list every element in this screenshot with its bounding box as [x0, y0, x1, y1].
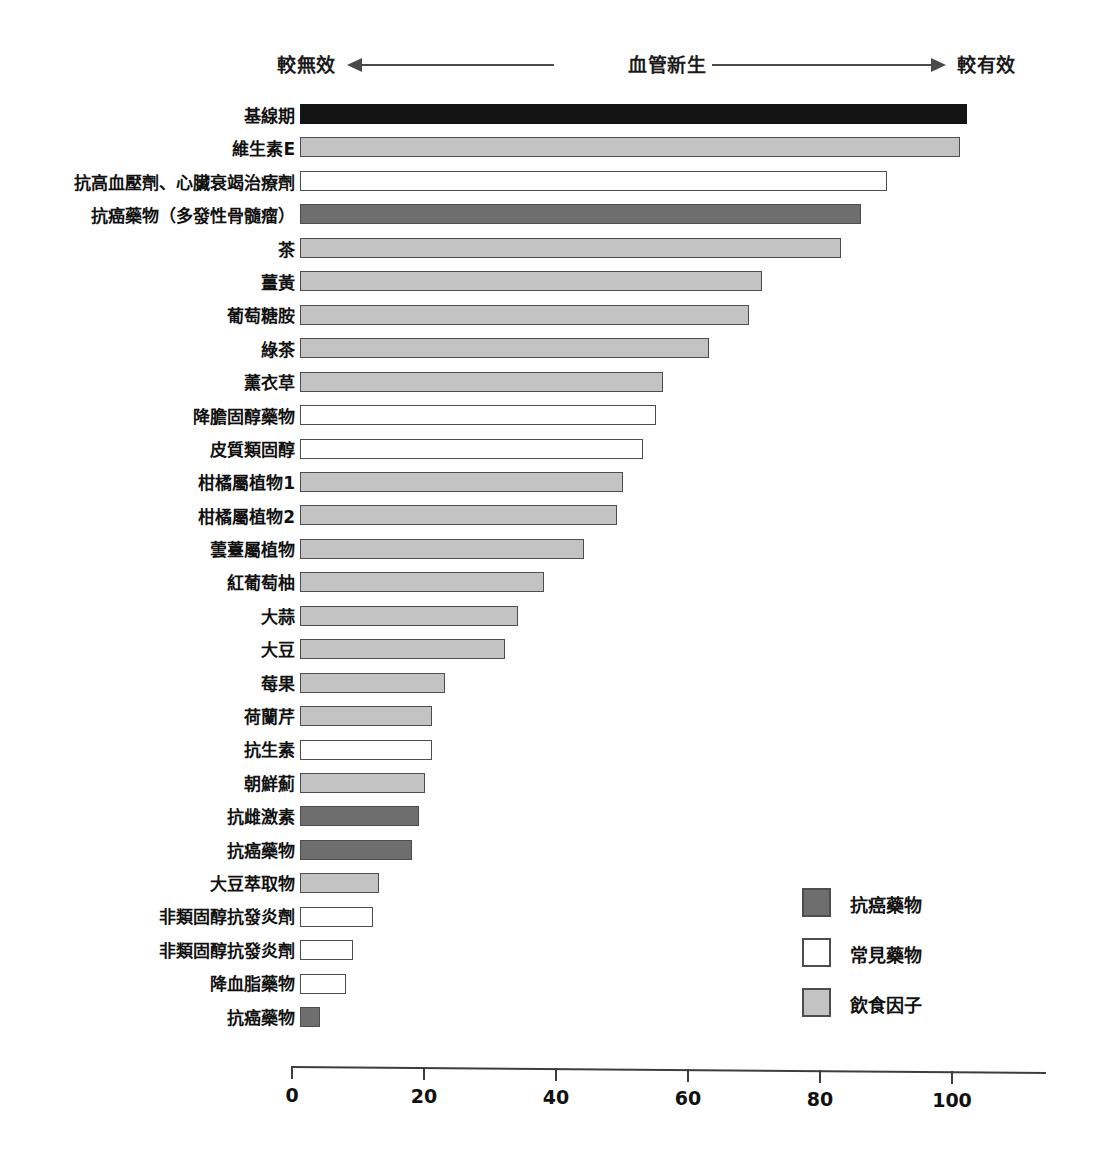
bar-category-label: 抗癌藥物 — [0, 1007, 295, 1029]
x-axis-tick-label: 0 — [285, 1084, 298, 1106]
bar-row: 抗高血壓劑、心臟衰竭治療劑 — [0, 170, 1105, 203]
bar-row: 葡萄糖胺 — [0, 303, 1105, 336]
legend: 抗癌藥物常見藥物飲食因子 — [802, 888, 1042, 1038]
legend-item: 飲食因子 — [802, 988, 1042, 1038]
x-axis-tick-label: 60 — [675, 1087, 701, 1109]
bar — [300, 372, 663, 392]
bar — [300, 1007, 320, 1027]
bar-category-label: 大豆 — [0, 639, 295, 661]
bar — [300, 806, 419, 826]
x-axis-tick — [423, 1067, 425, 1080]
bar-category-label: 柑橘屬植物1 — [0, 472, 295, 494]
bar-row: 薑黃 — [0, 270, 1105, 303]
x-axis-tick-label: 80 — [807, 1088, 833, 1110]
bar-row: 抗雌激素 — [0, 804, 1105, 837]
legend-swatch-cancer — [802, 888, 831, 917]
legend-label: 抗癌藥物 — [850, 891, 922, 917]
x-axis: 020406080100 — [0, 1062, 1105, 1152]
bar — [300, 940, 353, 960]
bar-row: 降膽固醇藥物 — [0, 404, 1105, 437]
bar — [300, 505, 617, 525]
arrow-left-shaft — [362, 64, 554, 66]
bar — [300, 873, 379, 893]
x-axis-tick-label: 100 — [932, 1089, 972, 1111]
bar-row: 朝鮮薊 — [0, 771, 1105, 804]
bar-row: 大蒜 — [0, 604, 1105, 637]
bar-category-label: 抗癌藥物（多發性骨髓瘤） — [0, 205, 295, 227]
bar-category-label: 降血脂藥物 — [0, 973, 295, 995]
legend-item: 常見藥物 — [802, 938, 1042, 988]
bar-category-label: 抗癌藥物 — [0, 840, 295, 862]
bar-category-label: 茶 — [0, 239, 295, 261]
bar — [300, 271, 762, 291]
bar — [300, 773, 425, 793]
bar-category-label: 基線期 — [0, 105, 295, 127]
bar-category-label: 薑黃 — [0, 272, 295, 294]
bar — [300, 439, 643, 459]
bar-category-label: 莓果 — [0, 673, 295, 695]
bar — [300, 405, 656, 425]
bar — [300, 539, 584, 559]
bar-row: 抗癌藥物 — [0, 838, 1105, 871]
arrow-right-icon — [931, 58, 946, 72]
bar-category-label: 大豆萃取物 — [0, 873, 295, 895]
bar — [300, 706, 432, 726]
bar-row: 基線期 — [0, 103, 1105, 136]
bar-row: 茶 — [0, 237, 1105, 270]
bar-category-label: 蕓薹屬植物 — [0, 539, 295, 561]
bar-category-label: 非類固醇抗發炎劑 — [0, 906, 295, 928]
bar — [300, 238, 841, 258]
bar — [300, 740, 432, 760]
bar-category-label: 抗高血壓劑、心臟衰竭治療劑 — [0, 172, 295, 194]
bar — [300, 606, 518, 626]
legend-label: 飲食因子 — [850, 991, 922, 1017]
bar-category-label: 降膽固醇藥物 — [0, 406, 295, 428]
bar-row: 蕓薹屬植物 — [0, 537, 1105, 570]
bar — [300, 639, 505, 659]
bar-category-label: 葡萄糖胺 — [0, 305, 295, 327]
bar-category-label: 抗生素 — [0, 739, 295, 761]
x-axis-tick — [951, 1071, 953, 1084]
bar — [300, 907, 373, 927]
direction-banner: 較無效 血管新生 較有效 — [0, 52, 1105, 92]
legend-label: 常見藥物 — [850, 941, 922, 967]
bar-category-label: 薰衣草 — [0, 372, 295, 394]
bar-category-label: 非類固醇抗發炎劑 — [0, 940, 295, 962]
more-effective-label: 較有效 — [957, 52, 1016, 78]
arrow-right-shaft — [712, 64, 934, 66]
bar-category-label: 維生素E — [0, 138, 295, 160]
angiogenesis-label: 血管新生 — [628, 52, 706, 78]
bar-category-label: 大蒜 — [0, 606, 295, 628]
bar — [300, 104, 967, 124]
legend-swatch-diet — [802, 988, 831, 1017]
bar-row: 大豆 — [0, 637, 1105, 670]
angiogenesis-bar-chart: 較無效 血管新生 較有效 基線期維生素E抗高血壓劑、心臟衰竭治療劑抗癌藥物（多發… — [0, 0, 1105, 1164]
bar-row: 綠茶 — [0, 337, 1105, 370]
x-axis-tick — [819, 1070, 821, 1083]
bar-row: 荷蘭芹 — [0, 704, 1105, 737]
x-axis-tick-label: 40 — [543, 1086, 569, 1108]
less-effective-label: 較無效 — [277, 52, 336, 78]
bar-category-label: 綠茶 — [0, 339, 295, 361]
bar-category-label: 荷蘭芹 — [0, 706, 295, 728]
x-axis-tick — [291, 1066, 293, 1079]
bar — [300, 472, 623, 492]
bar-row: 薰衣草 — [0, 370, 1105, 403]
legend-item: 抗癌藥物 — [802, 888, 1042, 938]
bar-category-label: 皮質類固醇 — [0, 439, 295, 461]
bar-row: 維生素E — [0, 136, 1105, 169]
bar-category-label: 柑橘屬植物2 — [0, 506, 295, 528]
bar — [300, 572, 544, 592]
bar-row: 柑橘屬植物1 — [0, 470, 1105, 503]
bar-row: 柑橘屬植物2 — [0, 504, 1105, 537]
bar — [300, 171, 887, 191]
bar-category-label: 紅葡萄柚 — [0, 572, 295, 594]
x-axis-tick — [687, 1069, 689, 1082]
bar — [300, 840, 412, 860]
x-axis-line — [291, 1066, 1046, 1074]
bar — [300, 974, 346, 994]
legend-swatch-drug — [802, 938, 831, 967]
bar-category-label: 朝鮮薊 — [0, 773, 295, 795]
bar-row: 莓果 — [0, 671, 1105, 704]
bar-row: 抗癌藥物（多發性骨髓瘤） — [0, 203, 1105, 236]
